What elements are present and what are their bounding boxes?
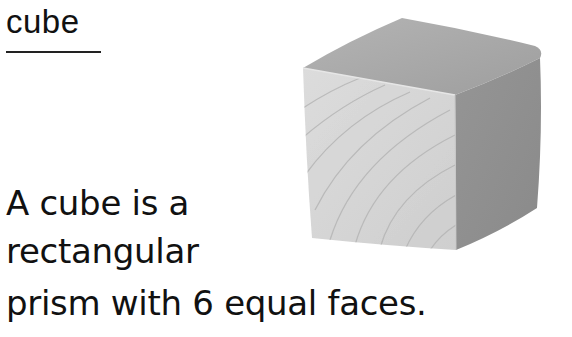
definition-line-1: A cube is a — [6, 183, 189, 223]
definition-line-3: prism with 6 equal faces. — [6, 283, 427, 323]
definition-line-2: rectangular — [6, 231, 199, 271]
term-title: cube — [6, 2, 80, 42]
title-underline — [6, 51, 101, 53]
cube-front-face — [303, 68, 456, 250]
wooden-cube-image — [290, 8, 560, 263]
